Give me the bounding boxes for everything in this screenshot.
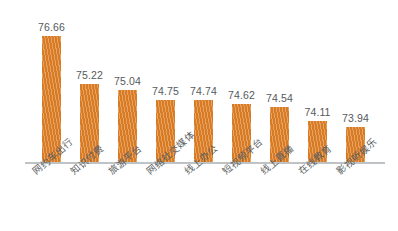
bar-chart: 76.6675.2275.0474.7574.7474.6274.5474.11… [0,0,398,231]
bar-value-label: 74.75 [152,85,179,97]
bar-group: 76.66 [42,0,61,162]
bar-group: 75.22 [80,0,99,162]
bar-value-label: 74.62 [228,89,255,101]
bar-value-label: 74.11 [305,106,331,118]
bar-value-label: 75.22 [76,69,103,81]
bar-group: 73.94 [346,0,365,162]
bar-group: 74.62 [232,0,251,162]
bar-group: 74.75 [156,0,175,162]
bar-series: 76.6675.2275.0474.7574.7474.6274.5474.11… [0,0,398,162]
bar-group: 74.54 [270,0,289,162]
bar-value-label: 74.54 [266,92,293,104]
bar-value-label: 74.74 [190,85,217,97]
bar-value-label: 76.66 [38,21,65,33]
x-axis-category-labels: 网约车出行知识付费旅游平台网络社交媒体线上办公短视频平台线上直播在线教育影视听娱… [0,164,398,231]
bar-group: 74.11 [308,0,327,162]
bar-value-label: 73.94 [342,112,369,124]
bar-value-label: 75.04 [114,75,141,87]
bar-group: 75.04 [118,0,137,162]
